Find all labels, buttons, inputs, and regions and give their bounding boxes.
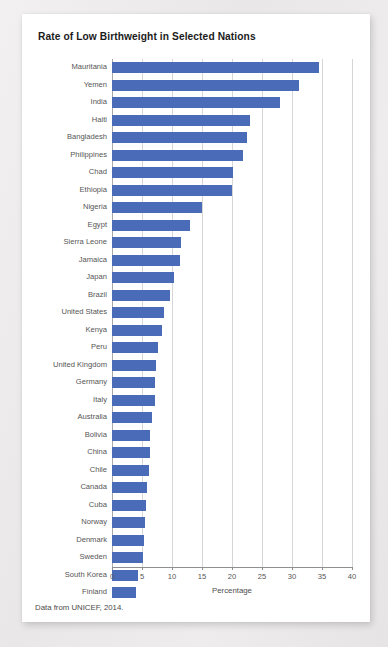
bar — [112, 360, 156, 371]
bar — [112, 202, 202, 213]
bar — [112, 430, 150, 441]
bar-row: Bangladesh — [112, 129, 352, 147]
x-tick-label: 30 — [288, 572, 296, 581]
bar-row: Ethiopia — [112, 182, 352, 200]
category-label: Norway — [81, 516, 107, 527]
category-label: Denmark — [76, 534, 107, 545]
bar — [112, 500, 146, 511]
bar-row: Jamaica — [112, 252, 352, 270]
category-label: Japan — [86, 271, 107, 282]
category-label: Nigeria — [83, 201, 107, 212]
bar — [112, 552, 143, 563]
category-label: Egypt — [88, 219, 107, 230]
category-label: United Kingdom — [53, 359, 107, 370]
category-label: Philippines — [70, 149, 107, 160]
bar-row: Kenya — [112, 322, 352, 340]
category-label: Mauritania — [72, 61, 107, 72]
tick-mark — [322, 567, 323, 570]
bar — [112, 167, 233, 178]
bar-row: Egypt — [112, 217, 352, 235]
x-tick-label: 15 — [198, 572, 206, 581]
bar — [112, 150, 243, 161]
tick-mark — [262, 567, 263, 570]
tick-mark — [232, 567, 233, 570]
bar — [112, 517, 145, 528]
bar-row: Canada — [112, 479, 352, 497]
category-label: Haiti — [92, 114, 107, 125]
bar — [112, 412, 152, 423]
category-label: Finland — [82, 586, 107, 597]
plot-area: MauritaniaYemenIndiaHaitiBangladeshPhili… — [112, 59, 352, 567]
bar-row: Cuba — [112, 497, 352, 515]
bar-row: Chile — [112, 462, 352, 480]
bar — [112, 97, 280, 108]
bar — [112, 447, 150, 458]
category-label: Canada — [80, 481, 107, 492]
tick-mark — [292, 567, 293, 570]
bar — [112, 482, 147, 493]
tick-mark — [172, 567, 173, 570]
tick-mark — [352, 567, 353, 570]
category-label: Ethiopia — [80, 184, 107, 195]
category-label: Sierra Leone — [64, 236, 107, 247]
bar-row: Denmark — [112, 532, 352, 550]
tick-mark — [112, 567, 113, 570]
bar-row: Peru — [112, 339, 352, 357]
x-tick-label: 40 — [348, 572, 356, 581]
category-label: Cuba — [89, 499, 107, 510]
category-label: Peru — [91, 341, 107, 352]
bar-row: Yemen — [112, 77, 352, 95]
bar-row: India — [112, 94, 352, 112]
category-label: Brazil — [88, 289, 107, 300]
bar — [112, 62, 319, 73]
bar-row: Germany — [112, 374, 352, 392]
bar-row: Nigeria — [112, 199, 352, 217]
bar — [112, 307, 164, 318]
category-label: Chile — [90, 464, 107, 475]
bar-row: Japan — [112, 269, 352, 287]
category-label: Yemen — [84, 79, 107, 90]
category-label: Jamaica — [79, 254, 107, 265]
bar — [112, 570, 138, 581]
bar-row: Haiti — [112, 112, 352, 130]
tick-mark — [202, 567, 203, 570]
bar — [112, 465, 149, 476]
bar — [112, 185, 232, 196]
bar — [112, 115, 250, 126]
bar — [112, 80, 299, 91]
page-title: Rate of Low Birthweight in Selected Nati… — [38, 31, 256, 42]
bar — [112, 132, 247, 143]
category-label: Sweden — [80, 551, 107, 562]
bar-row: United States — [112, 304, 352, 322]
category-label: India — [91, 96, 107, 107]
x-tick-label: 0 — [110, 572, 114, 581]
bar — [112, 342, 158, 353]
category-label: United States — [61, 306, 107, 317]
category-label: Bolivia — [85, 429, 107, 440]
bar-row: Sierra Leone — [112, 234, 352, 252]
bar — [112, 220, 190, 231]
bar — [112, 395, 155, 406]
x-tick-label: 5 — [140, 572, 144, 581]
bar-row: Italy — [112, 392, 352, 410]
bar — [112, 237, 181, 248]
category-label: Australia — [77, 411, 107, 422]
x-tick-label: 10 — [168, 572, 176, 581]
bar — [112, 377, 155, 388]
bar-row: Norway — [112, 514, 352, 532]
x-tick-label: 20 — [228, 572, 236, 581]
bar-row: Australia — [112, 409, 352, 427]
source-note: Data from UNICEF, 2014. — [35, 603, 123, 612]
gridline — [352, 59, 353, 567]
x-tick-label: 35 — [318, 572, 326, 581]
bar — [112, 272, 174, 283]
bar — [112, 535, 144, 546]
category-label: South Korea — [65, 569, 107, 580]
bar — [112, 290, 170, 301]
bar-row: Sweden — [112, 549, 352, 567]
category-label: Bangladesh — [67, 131, 107, 142]
bar-row: China — [112, 444, 352, 462]
tick-mark — [142, 567, 143, 570]
bar-row: Brazil — [112, 287, 352, 305]
bar — [112, 325, 162, 336]
